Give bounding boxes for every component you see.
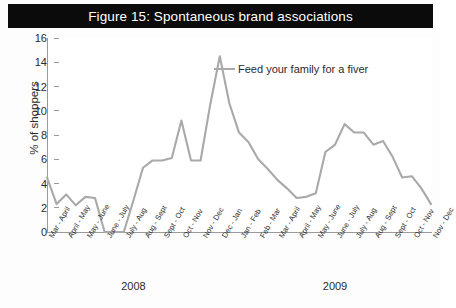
x-axis-year-label-2008: 2008 xyxy=(121,280,145,292)
x-axis-tick-labels: Mar - AprilApril - MayMay - JuneJune - J… xyxy=(0,232,441,280)
x-axis-year-label-2009: 2009 xyxy=(323,280,347,292)
x-axis-year-groups: 20082009 xyxy=(0,276,441,306)
